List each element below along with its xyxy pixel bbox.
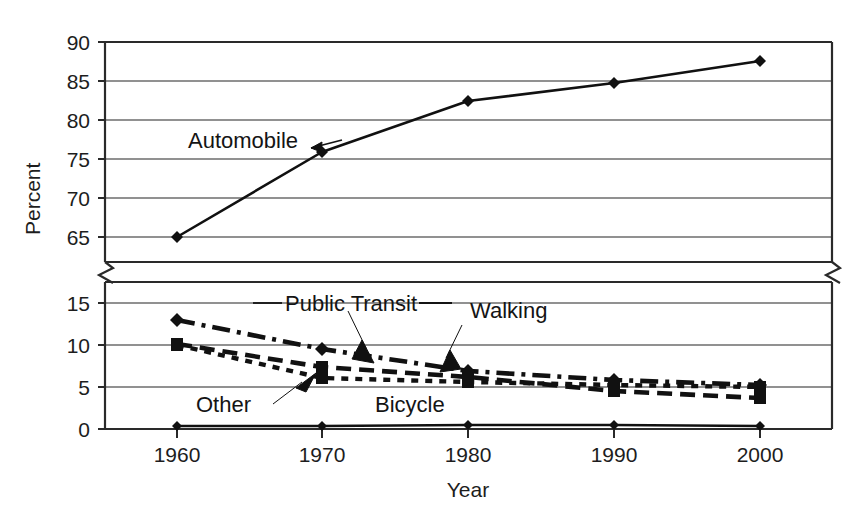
label-other: Other bbox=[196, 392, 251, 417]
x-tick-1960: 1960 bbox=[154, 443, 201, 466]
y-tick-15: 15 bbox=[67, 292, 90, 315]
axis-break-right bbox=[826, 262, 840, 283]
x-axis-title: Year bbox=[447, 478, 489, 501]
x-tick-2000: 2000 bbox=[737, 443, 784, 466]
label-automobile: Automobile bbox=[188, 128, 298, 153]
annotation-public-transit: Public Transit bbox=[253, 291, 452, 363]
annotation-walking: Walking bbox=[440, 298, 547, 372]
y-tick-75: 75 bbox=[67, 148, 90, 171]
transportation-mode-share-line-chart: 90 85 80 75 70 65 15 10 5 0 1960 1970 19… bbox=[0, 0, 868, 513]
y-tick-10: 10 bbox=[67, 334, 90, 357]
annotation-other: Other bbox=[196, 373, 316, 417]
annotation-automobile: Automobile bbox=[188, 128, 342, 153]
y-tick-85: 85 bbox=[67, 70, 90, 93]
y-tick-70: 70 bbox=[67, 187, 90, 210]
x-tick-1990: 1990 bbox=[591, 443, 638, 466]
y-axis-title: Percent bbox=[21, 162, 44, 235]
y-axis-tick-labels-lower: 15 10 5 0 bbox=[67, 292, 90, 441]
y-tick-5: 5 bbox=[78, 376, 90, 399]
y-tick-90: 90 bbox=[67, 31, 90, 54]
label-walking: Walking bbox=[470, 298, 547, 323]
y-tick-65: 65 bbox=[67, 226, 90, 249]
y-axis-tick-labels-upper: 90 85 80 75 70 65 bbox=[67, 31, 90, 249]
x-axis-tick-labels: 1960 1970 1980 1990 2000 bbox=[154, 443, 784, 466]
x-tick-1980: 1980 bbox=[445, 443, 492, 466]
annotation-bicycle: Bicycle bbox=[375, 392, 445, 417]
chart-container: 90 85 80 75 70 65 15 10 5 0 1960 1970 19… bbox=[0, 0, 868, 513]
label-bicycle: Bicycle bbox=[375, 392, 445, 417]
label-public-transit: Public Transit bbox=[285, 291, 417, 316]
y-tick-80: 80 bbox=[67, 109, 90, 132]
series-walking bbox=[171, 338, 766, 404]
axis-break-left bbox=[99, 262, 113, 283]
x-axis-ticks bbox=[177, 429, 760, 438]
y-tick-0: 0 bbox=[78, 418, 90, 441]
x-tick-1970: 1970 bbox=[299, 443, 346, 466]
series-walking-markers bbox=[171, 338, 766, 404]
